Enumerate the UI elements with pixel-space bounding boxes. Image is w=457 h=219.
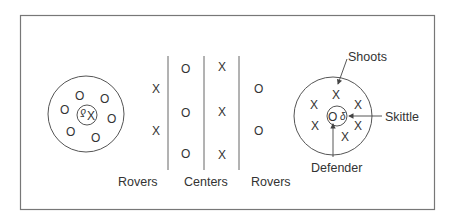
label-centers: Centers <box>184 175 228 189</box>
right-ring-player: X <box>354 119 362 133</box>
right-ring-player: X <box>354 98 362 112</box>
right-ring-player: X <box>311 119 319 133</box>
label-rovers-left: Rovers <box>118 175 158 189</box>
left-ring-player: O <box>100 92 109 106</box>
left-ring-player: O <box>107 112 116 126</box>
left-center-player: X <box>87 109 95 123</box>
left-ring-player: O <box>60 103 69 117</box>
left-rover-player: X <box>152 82 160 96</box>
left-shooting-circle: δ X O O O O O O <box>48 76 124 152</box>
center-player: O <box>181 62 190 76</box>
left-rover-player: X <box>152 124 160 138</box>
center-player: O <box>181 106 190 120</box>
right-ring-player: X <box>332 88 340 102</box>
right-shooting-circle: O δ X X X X X X Shoots Skittle Defender <box>294 50 419 175</box>
skittles-diagram: δ X O O O O O O X X O O O X X X O O Rove… <box>0 0 457 219</box>
label-defender: Defender <box>311 161 362 175</box>
right-rover-player: O <box>254 124 263 138</box>
right-ring-player: X <box>341 130 349 144</box>
shoots-arrow <box>338 59 347 84</box>
right-rover-player: O <box>254 82 263 96</box>
right-center-player: O <box>328 110 337 124</box>
label-skittle: Skittle <box>385 110 419 124</box>
middle-zone: X X O O O X X X O O Rovers Centers Rover… <box>118 56 291 189</box>
right-ring-player: X <box>310 98 318 112</box>
left-skittle-glyph: δ <box>80 107 86 118</box>
center-player: X <box>218 148 226 162</box>
left-ring-player: O <box>66 125 75 139</box>
right-skittle-glyph: δ <box>340 111 346 122</box>
left-ring-player: O <box>75 89 84 103</box>
label-rovers-right: Rovers <box>251 175 291 189</box>
center-player: O <box>181 147 190 161</box>
left-ring-player: O <box>91 131 100 145</box>
label-shoots: Shoots <box>348 50 387 64</box>
center-player: X <box>218 60 226 74</box>
center-player: X <box>218 105 226 119</box>
